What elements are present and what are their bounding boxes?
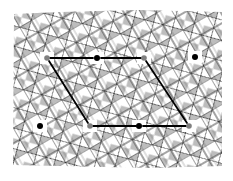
black-lattice-point <box>192 54 198 60</box>
black-lattice-point <box>136 123 142 129</box>
tiling-diagram <box>0 0 233 181</box>
gray-lattice-point <box>44 55 50 61</box>
gray-lattice-point <box>87 123 93 129</box>
black-lattice-point <box>37 123 43 129</box>
tiling-pattern <box>0 0 233 181</box>
black-lattice-point <box>94 55 100 61</box>
gray-lattice-point <box>141 55 147 61</box>
gray-lattice-point <box>186 123 192 129</box>
